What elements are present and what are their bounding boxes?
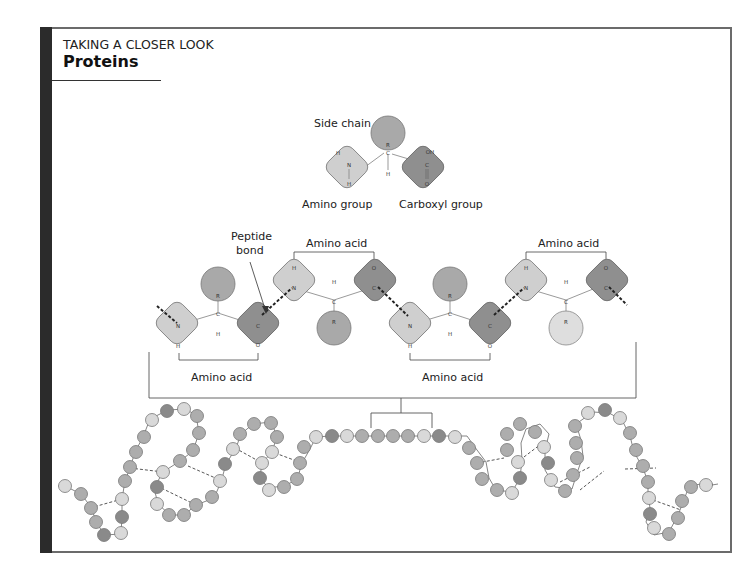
svg-text:H: H	[448, 331, 452, 337]
single-amino-acid: Side chain R C H H N H OH C O Amino grou…	[302, 116, 483, 211]
carboxyl-group-shape	[351, 256, 399, 304]
svg-text:OH: OH	[426, 149, 434, 155]
amino-group-label: Amino group	[302, 198, 372, 211]
svg-text:N: N	[292, 285, 296, 291]
svg-text:O: O	[256, 342, 261, 348]
folded-protein-chain	[58, 403, 718, 542]
svg-text:H: H	[332, 279, 336, 285]
peptide-bond-label: Peptidebond	[231, 230, 272, 257]
svg-text:H: H	[336, 150, 340, 156]
svg-text:O: O	[488, 343, 493, 349]
svg-text:C: C	[448, 311, 452, 317]
svg-text:C: C	[332, 299, 336, 305]
svg-text:H: H	[524, 265, 528, 271]
carboxyl-group-shape	[583, 256, 631, 304]
amino-group-shape	[270, 256, 318, 304]
svg-text:C: C	[564, 299, 568, 305]
carboxyl-group-label: Carboxyl group	[399, 198, 483, 211]
side-chain-circle	[317, 311, 351, 345]
amino-acid-bracket	[410, 353, 490, 360]
svg-text:N: N	[408, 323, 412, 329]
carboxyl-group-shape	[399, 143, 447, 191]
svg-text:N: N	[176, 323, 180, 329]
svg-text:N: N	[347, 162, 351, 168]
svg-text:H: H	[386, 171, 390, 177]
side-chain-circle	[549, 311, 583, 345]
svg-text:O: O	[425, 181, 430, 187]
amino-acid-label: Amino acid	[191, 371, 252, 384]
svg-text:H: H	[347, 181, 351, 187]
svg-text:O: O	[372, 265, 377, 271]
svg-text:C: C	[604, 285, 608, 291]
amino-acid-label: Amino acid	[538, 237, 599, 250]
amino-acid-bracket	[526, 252, 606, 259]
amino-acid-bracket	[294, 252, 374, 259]
amino-acid-label: Amino acid	[306, 237, 367, 250]
amino-group-shape	[502, 256, 550, 304]
amino-acid-label: Amino acid	[422, 371, 483, 384]
svg-text:C: C	[488, 323, 492, 329]
svg-text:H: H	[292, 265, 296, 271]
svg-text:H: H	[408, 343, 412, 349]
svg-text:C: C	[256, 323, 260, 329]
svg-text:C: C	[386, 150, 390, 156]
chain-expansion-bracket	[149, 342, 636, 428]
svg-text:R: R	[332, 319, 336, 325]
svg-text:C: C	[216, 311, 220, 317]
svg-text:C: C	[425, 162, 429, 168]
svg-text:H: H	[176, 343, 180, 349]
svg-text:R: R	[216, 293, 220, 299]
svg-text:O: O	[604, 265, 609, 271]
svg-text:R: R	[448, 293, 452, 299]
svg-text:C: C	[372, 285, 376, 291]
svg-text:H: H	[564, 279, 568, 285]
svg-text:R: R	[386, 142, 390, 148]
protein-diagram: Side chain R C H H N H OH C O Amino grou…	[0, 0, 742, 587]
svg-text:H: H	[216, 331, 220, 337]
svg-text:R: R	[564, 319, 568, 325]
peptide-chain: RCH NH CO HN HCR OC RCH NH CO HN HCR OC …	[153, 230, 631, 384]
amino-acid-bracket	[179, 353, 258, 360]
side-chain-label: Side chain	[314, 117, 371, 130]
svg-text:N: N	[524, 285, 528, 291]
